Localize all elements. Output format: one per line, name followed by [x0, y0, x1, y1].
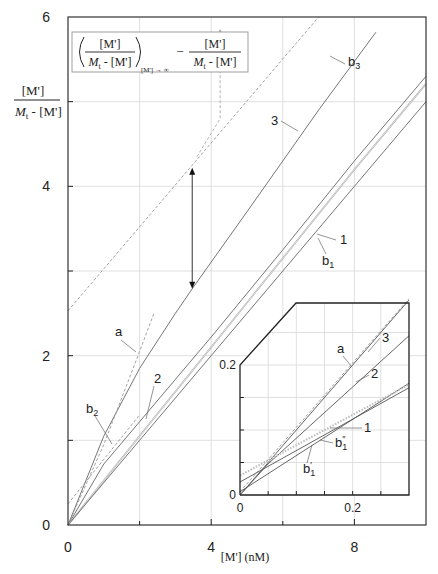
fraction-numerator: [M'] [205, 37, 226, 51]
x-tick-label: 4 [207, 539, 215, 555]
curve-label: b1 [322, 253, 334, 270]
curve-label: 1 [340, 232, 347, 247]
minus-sign: − [176, 44, 183, 59]
inset-curve-label: 3 [382, 330, 389, 345]
series-b2 [68, 415, 140, 504]
leader-line [281, 121, 298, 131]
leader-line [318, 238, 326, 254]
inset-x-tick-label: 0.2 [344, 501, 361, 515]
x-tick-label: 8 [351, 539, 359, 555]
inset-y-tick-label: 0.2 [219, 358, 236, 372]
inset-curve-label: a [337, 341, 345, 356]
x-axis-label: [M'] (nM) [221, 550, 270, 564]
fraction-denominator: Mt - [M'] [192, 55, 236, 71]
inset-plot: 00.200.2a321b1″b1′ [219, 299, 409, 515]
leader-line [146, 386, 154, 419]
y-tick-label: 2 [42, 348, 50, 364]
formula-box: [M']Mt - [M'][M'] → ∞−[M']Mt - [M'] [72, 32, 248, 74]
binding-plot: 00.200.2a321b1″b1′ 0480246[M'] (nM)[M']M… [0, 0, 438, 574]
inset-x-tick-label: 0 [237, 501, 244, 515]
fraction-denominator: Mt - [M'] [87, 55, 131, 71]
arrow-head-up-icon [189, 168, 195, 175]
curve-label: 2 [154, 371, 161, 386]
y-tick-label: 6 [42, 9, 50, 25]
x-tick-label: 0 [64, 539, 72, 555]
y-label-numerator: [M'] [22, 83, 45, 98]
curve-label: 3 [271, 113, 278, 128]
inset-curve-label: 1 [364, 420, 371, 435]
y-tick-label: 0 [42, 517, 50, 533]
limit-subscript: [M'] → ∞ [141, 66, 169, 74]
fraction-numerator: [M'] [100, 37, 121, 51]
leader-line [95, 416, 112, 444]
leader-line [121, 340, 136, 352]
leader-line [317, 234, 336, 240]
inset-curve-label: 2 [371, 366, 378, 381]
y-tick-label: 4 [42, 178, 50, 194]
inset-y-tick-label: 0 [229, 488, 236, 502]
leader-line [330, 56, 345, 64]
inset-curve-label: b1″ [335, 434, 347, 452]
curve-label: b2 [86, 401, 98, 418]
y-label-denominator: Mt - [M'] [14, 104, 62, 121]
curve-label: a [115, 324, 123, 339]
